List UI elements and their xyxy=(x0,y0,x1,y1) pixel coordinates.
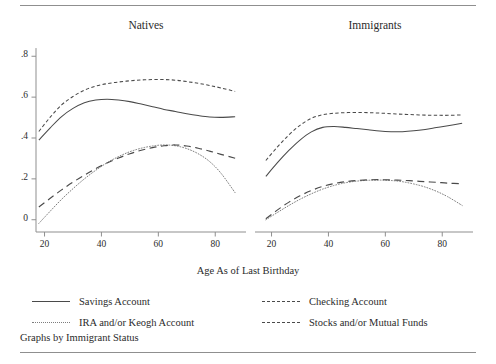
legend-label-ira: IRA and/or Keogh Account xyxy=(79,317,194,328)
bottom-rule xyxy=(20,352,476,353)
panel-title-immigrants: Immigrants xyxy=(325,19,425,31)
series-line xyxy=(39,99,235,140)
x-tick-label: 80 xyxy=(200,239,230,249)
chart-figure: Natives Immigrants Age As of Last Birthd… xyxy=(0,0,496,364)
x-axis-title: Age As of Last Birthday xyxy=(0,265,496,276)
series-line xyxy=(266,112,462,160)
chart-caption: Graphs by Immigrant Status xyxy=(20,332,139,343)
legend-key-dotted-icon xyxy=(32,317,70,327)
panel-title-natives: Natives xyxy=(96,19,196,31)
legend-key-shortdash-icon xyxy=(262,296,300,306)
series-line xyxy=(39,145,235,223)
legend-label-stocks: Stocks and/or Mutual Funds xyxy=(309,317,428,328)
legend-item-ira: IRA and/or Keogh Account xyxy=(32,313,194,331)
series-line xyxy=(266,180,462,220)
y-tick-label: .6 xyxy=(2,90,28,100)
legend-key-longdash-icon xyxy=(262,317,300,327)
x-tick-label: 60 xyxy=(143,239,173,249)
x-tick-label: 20 xyxy=(257,239,287,249)
x-tick-label: 40 xyxy=(313,239,343,249)
series-line xyxy=(266,180,462,219)
x-tick-label: 40 xyxy=(86,239,116,249)
y-tick-label: .8 xyxy=(2,49,28,59)
legend-item-checking: Checking Account xyxy=(262,292,387,310)
x-tick-label: 60 xyxy=(370,239,400,249)
x-tick-label: 20 xyxy=(30,239,60,249)
legend-item-stocks: Stocks and/or Mutual Funds xyxy=(262,313,428,331)
x-tick-label: 80 xyxy=(427,239,457,249)
legend-label-savings: Savings Account xyxy=(79,296,150,307)
y-tick-label: .2 xyxy=(2,172,28,182)
series-line xyxy=(39,79,235,131)
y-tick-label: 0 xyxy=(2,213,28,223)
series-line xyxy=(39,145,235,207)
legend-label-checking: Checking Account xyxy=(309,296,387,307)
legend-item-savings: Savings Account xyxy=(32,292,150,310)
series-line xyxy=(266,123,462,176)
y-tick-label: .4 xyxy=(2,131,28,141)
legend-key-solid-icon xyxy=(32,296,70,306)
